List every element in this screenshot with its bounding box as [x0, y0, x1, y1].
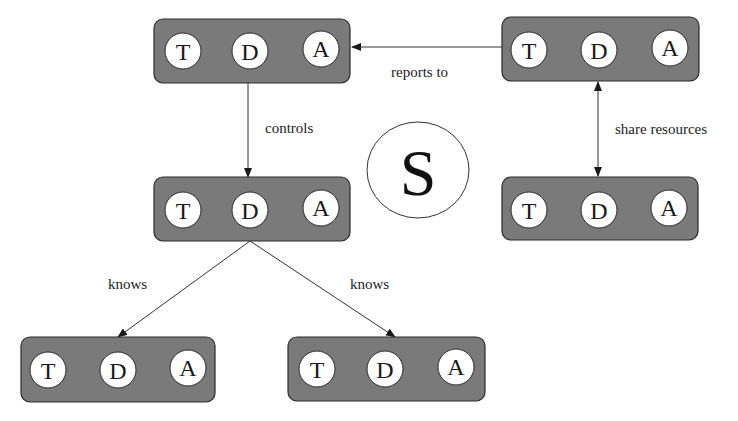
d-letter: D — [109, 358, 126, 384]
t-letter: T — [522, 38, 537, 64]
label-controls: controls — [265, 120, 313, 136]
agent-node-middle-right: T D A — [502, 177, 698, 240]
agent-diagram: reports to controls share resources know… — [0, 0, 738, 421]
d-letter: D — [590, 198, 607, 224]
agent-node-top-left: T D A — [154, 19, 350, 83]
t-letter: T — [176, 198, 191, 224]
t-letter: T — [310, 357, 325, 383]
a-letter: A — [179, 355, 197, 381]
label-reports-to: reports to — [391, 64, 448, 80]
label-knows-right: knows — [350, 276, 389, 292]
a-letter: A — [660, 195, 678, 221]
t-letter: T — [522, 198, 537, 224]
label-share-resources: share resources — [615, 121, 707, 137]
d-letter: D — [241, 198, 258, 224]
central-s-node: S — [367, 122, 469, 218]
d-letter: D — [376, 357, 393, 383]
agent-node-top-right: T D A — [502, 17, 699, 81]
d-letter: D — [241, 39, 258, 65]
a-letter: A — [312, 36, 330, 62]
agent-node-bottom-left: T D A — [21, 337, 215, 402]
t-letter: T — [41, 358, 56, 384]
d-letter: D — [590, 38, 607, 64]
a-letter: A — [447, 354, 465, 380]
agent-node-middle-left: T D A — [154, 177, 350, 241]
t-letter: T — [176, 39, 191, 65]
s-letter: S — [400, 136, 437, 209]
label-knows-left: knows — [108, 276, 147, 292]
a-letter: A — [661, 35, 679, 61]
agent-node-bottom-right: T D A — [288, 337, 485, 401]
a-letter: A — [312, 195, 330, 221]
